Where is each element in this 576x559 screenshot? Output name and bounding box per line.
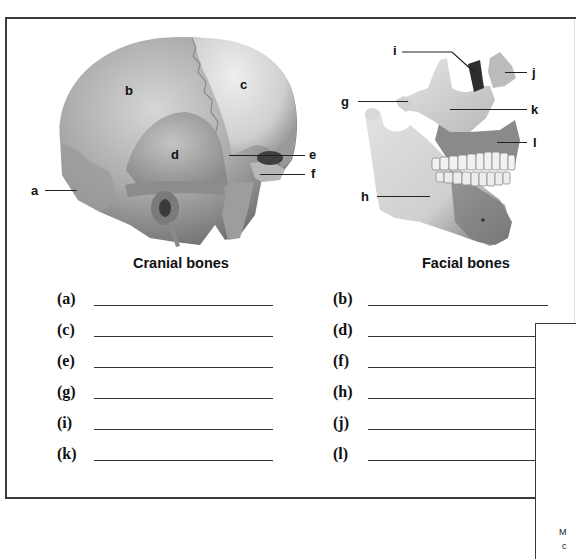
answer-label-g: (g) (57, 384, 76, 400)
answer-label-b: (b) (333, 291, 353, 307)
leader-line-k (450, 109, 527, 110)
answer-label-f: (f) (333, 353, 349, 369)
answer-blank-k[interactable] (94, 460, 273, 461)
answer-blank-l[interactable] (368, 460, 535, 461)
answer-label-i: (i) (57, 415, 72, 431)
answer-blank-i[interactable] (94, 429, 273, 430)
answer-label-h: (h) (333, 384, 353, 400)
answer-label-e: (e) (57, 353, 75, 369)
leader-line-g (358, 101, 408, 102)
answer-blank-d[interactable] (368, 336, 535, 337)
callout-label-j: j (532, 66, 536, 79)
answer-label-l: (l) (333, 446, 348, 462)
answer-blank-a[interactable] (94, 305, 273, 306)
callout-label-g: g (341, 95, 349, 108)
answer-blank-h[interactable] (368, 398, 535, 399)
answer-blank-f[interactable] (368, 367, 535, 368)
leader-line-h (377, 196, 430, 197)
answer-blank-j[interactable] (368, 429, 535, 430)
answer-label-a: (a) (57, 291, 76, 307)
answer-label-d: (d) (333, 322, 353, 338)
answer-label-k: (k) (57, 446, 77, 462)
answer-blank-g[interactable] (94, 398, 273, 399)
answer-blank-c[interactable] (94, 336, 273, 337)
callout-label-l: l (533, 136, 537, 149)
answer-label-c: (c) (57, 322, 75, 338)
facial-bones-caption: Facial bones (422, 255, 510, 271)
leader-line-l (497, 142, 527, 143)
leader-line-j (505, 72, 527, 73)
callout-label-i: i (393, 44, 397, 57)
callout-label-k: k (531, 103, 538, 116)
callout-label-h: h (361, 190, 369, 203)
answer-label-j: (j) (333, 415, 349, 431)
facial-skull-illustration (0, 0, 576, 559)
answer-blank-e[interactable] (94, 367, 273, 368)
answer-blank-b[interactable] (368, 305, 548, 306)
